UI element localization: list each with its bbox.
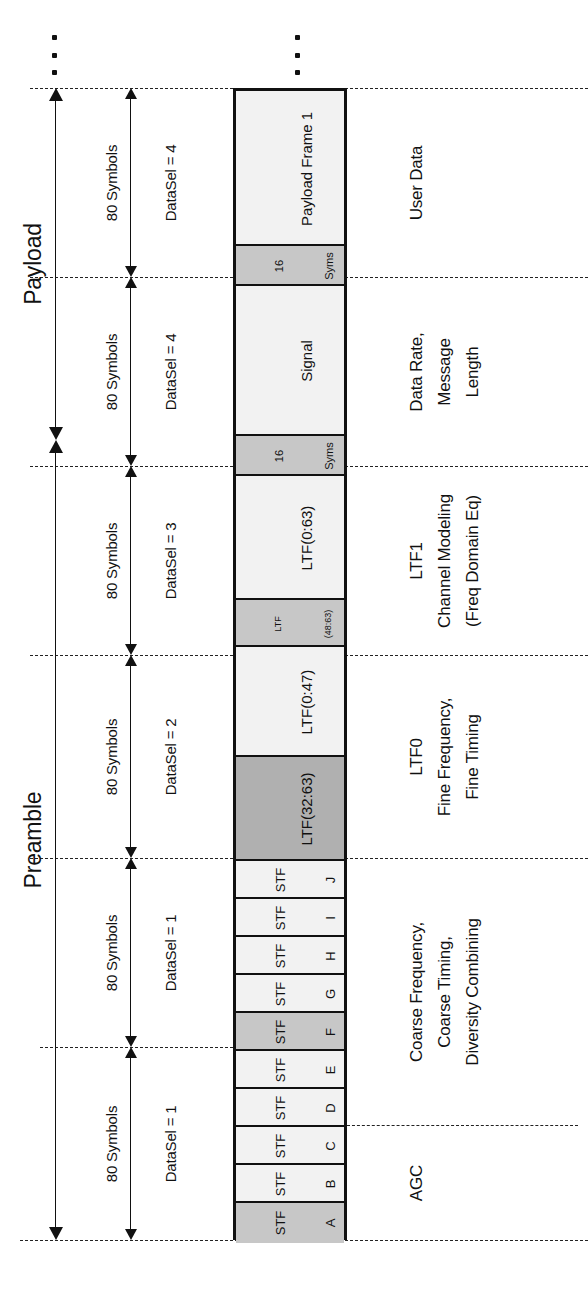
segment-datasel: DataSel = 1 [163,1105,178,1182]
frame-block-stf-i: STFI [236,899,344,937]
arrow-down-icon [125,1036,137,1047]
segment-symbol-count: 80 Symbols [104,144,119,220]
segment-datasel: DataSel = 4 [163,333,178,410]
segment-symbol-count: 80 Symbols [104,522,119,598]
frame-block-stf-a: STFA [236,1203,344,1243]
frame-block-sublabel: G [324,989,337,999]
arrow-up-icon [125,88,137,99]
frame-block-sublabel: E [324,1066,337,1075]
dimension-line [130,476,131,645]
frame-block-ltf-48-63: LTF(48:63) [236,600,344,647]
frame-block-label: STF [274,1096,287,1121]
arrow-down-icon [49,1227,63,1240]
desc-signal-line-2: Message [436,338,453,406]
arrow-down-icon [49,427,63,440]
desc-ltf1-line-2: Channel Modeling [436,494,453,628]
arrow-up-icon [125,466,137,477]
frame-block-gap-16-syms-1: 16Syms [236,246,344,286]
desc-user-data-line-1: User Data [408,145,425,220]
arrow-up-icon [125,1047,137,1058]
frame-block-ltf-0-47: LTF(0:47) [236,647,344,757]
frame-block-label: STF [274,1211,287,1236]
desc-ltf0-line-2: Fine Frequency, [436,697,453,816]
frame-block-sublabel: B [324,1180,337,1189]
desc-ltf1-line-1: LTF1 [408,542,425,580]
frame-block-sublabel: H [324,951,337,960]
frame-block-label: STF [274,1134,287,1159]
desc-ltf0-line-1: LTF0 [408,738,425,776]
frame-block-gap-16-syms-2: 16Syms [236,436,344,476]
frame-block-sublabel: Syms [324,252,335,280]
frame-block-sublabel: D [324,1103,337,1112]
segment-datasel: DataSel = 2 [163,718,178,795]
frame-block-sublabel: F [324,1028,337,1036]
desc-signal-line-1: Data Rate, [408,332,425,411]
frame-block-label: Signal [299,340,314,382]
segment-datasel: DataSel = 3 [163,522,178,599]
dimension-line [130,868,131,1037]
arrow-down-icon [125,644,137,655]
frame-block-stf-e: STFE [236,1051,344,1089]
dimension-line [130,665,131,848]
section-label-preamble: Preamble [22,792,45,889]
frame-block-label: LTF(32:63) [299,772,314,845]
dimension-line [130,98,131,267]
frame-block-label: STF [274,982,287,1007]
desc-stf-line-3: Diversity Combining [464,918,481,1065]
arrow-up-icon [125,655,137,666]
frame-column: Payload Frame 116SymsSignal16SymsLTF(0:6… [233,88,347,1240]
frame-block-payload-frame-1: Payload Frame 1 [236,91,344,246]
bracket-line [55,452,56,1228]
frame-block-sublabel: J [324,877,337,884]
frame-block-stf-c: STFC [236,1127,344,1165]
dimension-line [130,1057,131,1230]
frame-block-stf-j: STFJ [236,861,344,899]
frame-block-label: STF [274,906,287,931]
arrow-up-icon [49,440,63,453]
segment-datasel: DataSel = 1 [163,914,178,991]
segment-symbol-count: 80 Symbols [104,333,119,409]
frame-block-sublabel: Syms [324,442,335,470]
frame-block-stf-h: STFH [236,937,344,975]
frame-block-label: STF [274,868,287,893]
arrow-down-icon [125,1229,137,1240]
frame-block-label: 16 [274,450,285,462]
arrow-down-icon [125,847,137,858]
frame-block-label: Payload Frame 1 [299,111,314,225]
frame-block-label: STF [274,1020,287,1045]
segment-symbol-count: 80 Symbols [104,914,119,990]
frame-block-ltf-0-63: LTF(0:63) [236,476,344,600]
desc-signal-line-3: Length [464,346,481,397]
frame-block-sublabel: C [324,1141,337,1150]
frame-block-stf-g: STFG [236,975,344,1013]
frame-block-ltf-32-63: LTF(32:63) [236,757,344,861]
bracket-line [55,100,56,428]
arrow-up-icon [125,277,137,288]
frame-block-label: LTF(0:63) [299,506,314,571]
desc-agc-line-1: AGC [408,1164,425,1200]
desc-stf-line-2: Coarse Timing, [436,936,453,1048]
frame-block-sublabel: I [324,916,337,920]
dimension-line [130,287,131,456]
segment-symbol-count: 80 Symbols [104,1105,119,1181]
frame-block-label: STF [274,944,287,969]
frame-block-stf-b: STFB [236,1165,344,1203]
frame-block-label: LTF [274,616,283,631]
frame-block-stf-d: STFD [236,1089,344,1127]
section-label-payload: Payload [22,223,45,305]
frame-block-sublabel: A [324,1219,337,1228]
arrow-up-icon [49,88,63,101]
segment-symbol-count: 80 Symbols [104,718,119,794]
arrow-up-icon [125,858,137,869]
desc-ltf1-line-3: (Freq Domain Eq) [464,495,481,627]
frame-block-label: 16 [274,260,285,272]
frame-block-label: LTF(0:47) [299,670,314,735]
frame-block-sublabel: (48:63) [324,609,333,638]
arrow-down-icon [125,455,137,466]
arrow-down-icon [125,266,137,277]
desc-ltf0-line-3: Fine Timing [464,714,481,800]
desc-stf-line-1: Coarse Frequency, [408,922,425,1062]
segment-datasel: DataSel = 4 [163,144,178,221]
vertical-ellipsis-icon-left [52,35,57,75]
frame-block-signal: Signal [236,286,344,436]
